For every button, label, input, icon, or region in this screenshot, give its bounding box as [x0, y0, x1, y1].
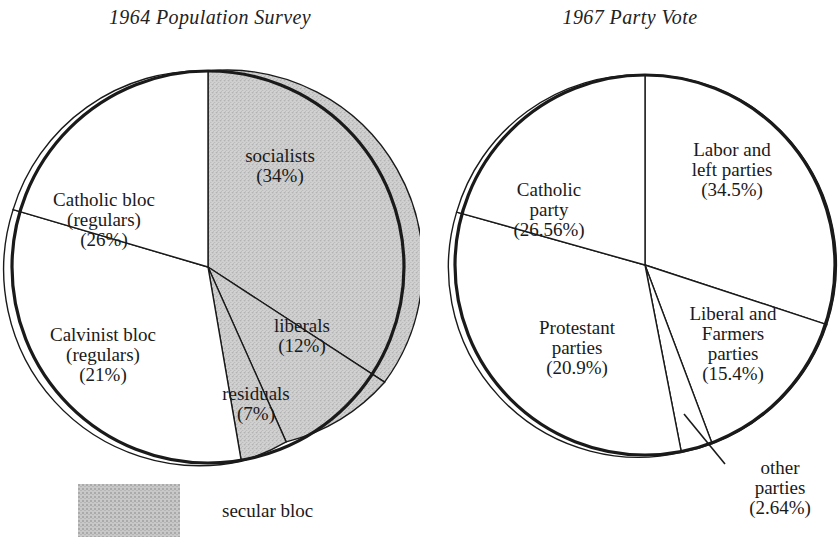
- right-chart-panel: 1967 Party Vote Labor and left parties (…: [420, 0, 840, 537]
- legend: secular bloc: [78, 484, 313, 537]
- right-pie-svg: [420, 0, 840, 537]
- legend-swatch-secular-bloc: [78, 484, 180, 537]
- left-chart-panel: 1964 Population Survey socialist: [0, 0, 420, 537]
- left-pie-svg: [0, 0, 420, 537]
- pie-charts-figure: 1964 Population Survey socialist: [0, 0, 840, 537]
- legend-label-secular-bloc: secular bloc: [222, 500, 313, 522]
